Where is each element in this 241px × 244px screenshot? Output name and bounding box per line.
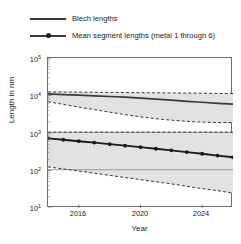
- chart-figure: Blech lengths Mean segment lengths (meta…: [0, 0, 241, 244]
- chart-legend: Blech lengths Mean segment lengths (meta…: [30, 10, 240, 44]
- y-tick-label: 103: [30, 128, 41, 139]
- y-tick-label: 105: [30, 53, 41, 64]
- plot-area: [47, 57, 232, 207]
- y-tick-label: 104: [30, 90, 41, 101]
- y-axis-title: Length in nm: [7, 42, 17, 158]
- x-tick-label: 2016: [70, 209, 86, 218]
- x-axis-tick-labels: 2016 2020 2024: [0, 209, 241, 223]
- x-axis-title: Year: [47, 224, 232, 234]
- x-tick-label: 2024: [193, 209, 209, 218]
- y-tick-label: 102: [30, 165, 41, 176]
- legend-label: Blech lengths: [72, 14, 118, 23]
- legend-item-mean-segment-lengths: Mean segment lengths (metal 1 through 6): [30, 27, 240, 44]
- x-tick-label: 2020: [132, 209, 148, 218]
- plot-svg: [48, 58, 233, 208]
- legend-label: Mean segment lengths (metal 1 through 6): [72, 31, 215, 40]
- legend-item-blech-lengths: Blech lengths: [30, 10, 240, 27]
